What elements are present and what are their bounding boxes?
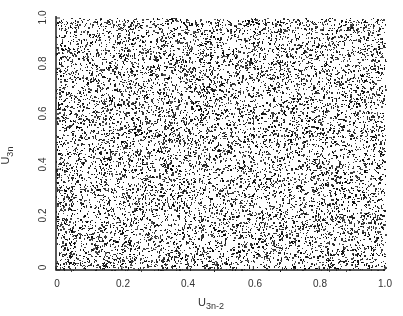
y-axis-label-main: U: [0, 157, 11, 165]
x-axis-label-main: U: [198, 296, 206, 308]
scatter-plot-canvas: [0, 0, 403, 316]
x-tick: 0.2: [116, 278, 130, 289]
x-tick: 0.8: [313, 278, 327, 289]
x-tick: 1.0: [378, 278, 392, 289]
y-tick: 0.6: [37, 102, 48, 126]
y-tick: 0: [37, 256, 48, 280]
x-axis-label-sub: 3n-2: [206, 301, 224, 311]
x-axis-label: U3n-2: [198, 296, 224, 311]
x-tick: 0.4: [181, 278, 195, 289]
y-tick: 0.4: [37, 153, 48, 177]
y-tick: 0.2: [37, 204, 48, 228]
y-tick: 0.8: [37, 52, 48, 76]
x-tick: 0.6: [248, 278, 262, 289]
y-axis-label: U3n: [0, 147, 15, 165]
y-tick: 1.0: [37, 6, 48, 30]
x-tick: 0: [54, 278, 60, 289]
y-axis-label-sub: 3n: [5, 147, 15, 157]
